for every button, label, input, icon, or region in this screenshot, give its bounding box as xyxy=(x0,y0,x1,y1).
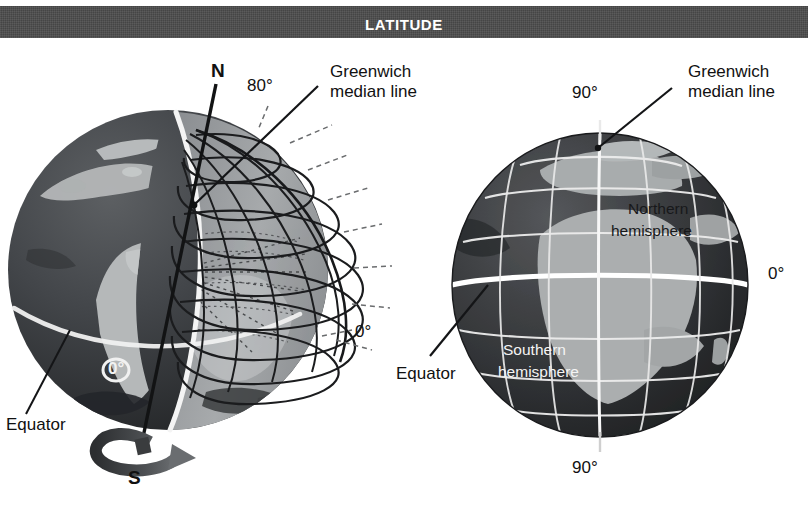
label-latitude-0-left: 0° xyxy=(355,322,371,341)
label-north-pole: N xyxy=(211,60,225,81)
label-southern-hemisphere-line2: hemisphere xyxy=(498,363,579,380)
eastward-rotation-arrow xyxy=(96,434,196,470)
right-globe-rim xyxy=(452,133,748,437)
greenwich-pointer-right xyxy=(598,88,672,148)
latitude-diagram-page: Latitude xyxy=(0,0,808,505)
greenwich-meridian-left xyxy=(170,112,200,430)
longitude-wireframe-arcs xyxy=(182,130,339,398)
equator-line-right xyxy=(452,275,748,285)
label-northern-hemisphere-line2: hemisphere xyxy=(611,222,692,239)
greenwich-pointer-dot-left xyxy=(191,202,198,209)
label-south-90: 90° xyxy=(572,458,598,477)
label-northern-hemisphere-line1: Northern xyxy=(628,200,688,217)
equator-pointer-left xyxy=(26,330,70,414)
equator-pointer-right xyxy=(430,285,488,356)
polar-axis-line xyxy=(140,84,216,452)
page-title: Latitude xyxy=(365,12,443,33)
right-globe-sphere xyxy=(452,133,748,437)
label-equator-right: Equator xyxy=(396,364,456,383)
latitude-leader-lines xyxy=(258,106,392,350)
greenwich-meridian-right xyxy=(599,133,601,437)
label-south-pole: S xyxy=(128,467,141,488)
wireframe-outer-edge xyxy=(196,130,346,362)
label-greenwich-right-line2: median line xyxy=(688,82,775,101)
right-globe-landmasses xyxy=(450,133,748,437)
greenwich-pointer-left xyxy=(194,86,318,205)
greenwich-pointer-dot-right xyxy=(595,145,601,151)
zero-degree-leader-left xyxy=(322,330,352,336)
longitude-grid-right xyxy=(500,138,733,432)
left-globe-sphere xyxy=(8,110,328,430)
equator-line-left xyxy=(14,308,300,346)
label-origin-0-left: 0° xyxy=(108,359,124,378)
label-greenwich-right-line1: Greenwich xyxy=(688,62,769,81)
label-north-90: 90° xyxy=(572,83,598,102)
left-globe-cutaway-face xyxy=(150,100,350,440)
label-equator-0-right: 0° xyxy=(768,264,784,283)
label-greenwich-left-line2: median line xyxy=(330,82,417,101)
label-latitude-80: 80° xyxy=(247,76,273,95)
right-globe-group xyxy=(430,88,748,452)
left-globe-dark-hemisphere xyxy=(26,139,184,415)
label-equator-left: Equator xyxy=(6,415,66,434)
label-southern-hemisphere-line1: Southern xyxy=(503,341,566,358)
latitude-wireframe-rings xyxy=(170,134,363,404)
header-bar: Latitude xyxy=(0,6,808,38)
left-globe-group xyxy=(8,84,392,470)
label-greenwich-left-line1: Greenwich xyxy=(330,62,411,81)
